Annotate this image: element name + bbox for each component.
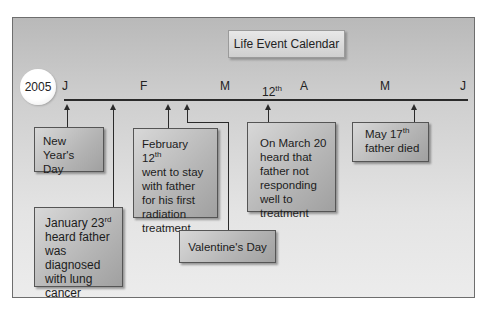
- marker-12th-suffix: th: [275, 84, 282, 93]
- marker-12th: 12th: [262, 84, 282, 99]
- month-label-mar: M: [220, 79, 230, 93]
- connector-mar20: [268, 108, 269, 122]
- event-new-years-line1: New Year's: [43, 134, 95, 162]
- event-feb12: February 12th went to stay with father f…: [133, 128, 218, 218]
- connector-valentines-a: [187, 108, 188, 122]
- connector-may17: [414, 108, 415, 122]
- connector-new-years: [67, 108, 68, 127]
- connector-valentines-c: [228, 122, 229, 230]
- month-label-feb: F: [140, 79, 147, 93]
- connector-jan23: [113, 108, 114, 207]
- event-may17: May 17th father died: [352, 122, 429, 162]
- month-label-apr: A: [300, 79, 308, 93]
- title-text: Life Event Calendar: [234, 37, 339, 51]
- event-jan23-date: January 23: [45, 216, 104, 230]
- event-may17-text: father died: [365, 141, 422, 155]
- marker-12th-number: 12: [262, 85, 275, 99]
- year-badge: 2005: [20, 69, 56, 105]
- event-mar20-text: On March 20 heard that father not respon…: [260, 136, 329, 220]
- event-may17-date: May 17: [365, 128, 403, 140]
- event-new-years-line2: Day: [43, 162, 95, 176]
- calendar-title: Life Event Calendar: [228, 30, 345, 58]
- connector-feb12: [168, 108, 169, 128]
- event-mar20: On March 20 heard that father not respon…: [247, 122, 336, 212]
- event-valentines-label: Valentine's Day: [188, 240, 267, 254]
- event-jan23: January 23rd heard father was diagnosed …: [34, 207, 123, 287]
- year-text: 2005: [25, 80, 52, 94]
- event-valentines: Valentine's Day: [179, 230, 276, 263]
- month-label-jun: J: [460, 79, 466, 93]
- event-may17-suffix: th: [403, 126, 410, 135]
- event-jan23-suffix: rd: [104, 215, 111, 224]
- connector-valentines-b: [187, 122, 228, 123]
- event-feb12-text: went to stay with father for his first r…: [142, 165, 209, 235]
- event-feb12-suffix: th: [155, 150, 162, 159]
- event-jan23-text: heard father was diagnosed with lung can…: [45, 230, 116, 300]
- month-label-may: M: [380, 79, 390, 93]
- timeline-axis: [64, 99, 468, 101]
- event-feb12-date: February 12: [142, 138, 188, 164]
- event-new-years: New Year's Day: [34, 127, 104, 172]
- month-label-jan: J: [62, 79, 68, 93]
